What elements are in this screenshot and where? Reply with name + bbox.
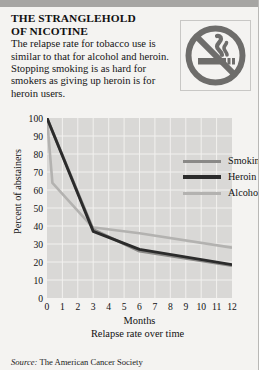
source-line: Source: The American Cancer Society [11, 357, 143, 367]
y-tick: 70 [17, 168, 43, 178]
top-decorative-bar [0, 0, 265, 7]
y-tick: 90 [17, 132, 43, 142]
x-tick: 5 [116, 302, 132, 312]
y-tick: 10 [17, 276, 43, 286]
x-tick: 6 [132, 302, 148, 312]
y-tick: 100 [17, 114, 43, 124]
x-tick: 9 [178, 302, 194, 312]
x-tick: 12 [224, 302, 240, 312]
x-tick: 0 [39, 302, 55, 312]
source-text: The American Cancer Society [39, 357, 142, 367]
page-title-line2: OF NICOTINE [11, 25, 88, 37]
x-tick: 10 [193, 302, 209, 312]
y-tick: 80 [17, 150, 43, 160]
x-axis-label: Months [47, 315, 232, 326]
x-tick: 1 [54, 302, 70, 312]
page-title-line1: THE STRANGLEHOLD [11, 12, 136, 24]
relapse-chart: Percent of abstainers [0, 108, 265, 323]
x-tick: 3 [85, 302, 101, 312]
no-smoking-icon [181, 21, 250, 90]
x-tick: 4 [101, 302, 117, 312]
infographic-panel: THE STRANGLEHOLD OF NICOTINE The relapse… [0, 0, 265, 374]
x-tick: 2 [70, 302, 86, 312]
x-tick: 8 [162, 302, 178, 312]
header-body-text: The relapse rate for tobacco use is simi… [11, 38, 179, 100]
y-tick: 50 [17, 204, 43, 214]
y-tick: 60 [17, 186, 43, 196]
x-tick: 7 [147, 302, 163, 312]
header-block: THE STRANGLEHOLD OF NICOTINE The relapse… [11, 12, 179, 100]
chart-subcaption: Relapse rate over time [30, 328, 245, 339]
y-tick: 30 [17, 240, 43, 250]
right-page-edge [258, 0, 265, 374]
y-tick: 20 [17, 258, 43, 268]
bottom-page-edge [0, 370, 265, 374]
x-tick: 11 [209, 302, 225, 312]
page-title: THE STRANGLEHOLD OF NICOTINE [11, 12, 179, 37]
y-axis-ticks: 100 90 80 70 60 50 40 30 20 10 0 0 1 2 3… [0, 108, 265, 323]
y-tick: 40 [17, 222, 43, 232]
no-smoking-icon-frame [180, 20, 251, 91]
source-label: Source: [11, 357, 37, 367]
